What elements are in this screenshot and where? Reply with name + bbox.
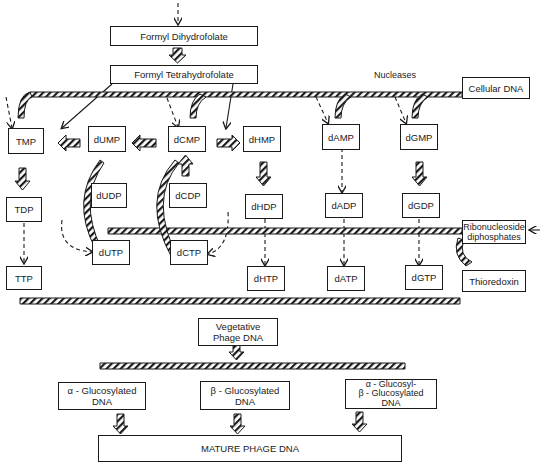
node-label: dHTP [254, 273, 278, 284]
node-label: Vegetative [216, 321, 260, 332]
dcdp-node: dCDP [169, 183, 207, 208]
node-label: MATURE PHAGE DNA [201, 443, 299, 454]
node-label: dUDP [96, 190, 121, 201]
node-label: Ribonucleoside [463, 222, 525, 232]
node-label: α - Glucosylated [68, 385, 137, 396]
dcmp-node: dCMP [168, 126, 206, 152]
dgmp-node: dGMP [400, 124, 438, 150]
node-label: dGMP [406, 132, 433, 143]
node-label: DNA [381, 399, 400, 409]
node-label: dUTP [99, 247, 123, 258]
node-label: dHDP [251, 201, 276, 212]
node-label: dCDP [175, 190, 200, 201]
dhdp-node: dHDP [245, 194, 283, 219]
node-label: dAMP [328, 132, 354, 143]
node-label: dCMP [174, 134, 200, 145]
node-label: TMP [16, 136, 36, 147]
ribonucleoside-diphosphates-node: Ribonucleosidediphosphates [462, 220, 526, 244]
node-label: dHMP [249, 134, 275, 145]
alpha-beta-glucosylated-dna-node: α - Glucosyl-β - GlucosylatedDNA [345, 379, 437, 409]
node-label: TDP [15, 204, 34, 215]
alpha-glucosylated-dna-node: α - GlucosylatedDNA [58, 382, 146, 410]
ttp-node: TTP [6, 266, 42, 290]
datp-node: dATP [327, 266, 365, 291]
dudp-node: dUDP [91, 183, 127, 208]
dump-node: dUMP [88, 126, 126, 152]
dgdp-node: dGDP [402, 193, 440, 218]
tmp-node: TMP [8, 128, 44, 154]
node-label: β - Glucosylated [211, 385, 280, 396]
formyl-tetrahydrofolate-node: Formyl Tetrahydrofolate [110, 65, 258, 84]
dadp-node: dADP [325, 193, 363, 218]
thioredoxin-node: Thioredoxin [462, 270, 526, 292]
cellular-dna-node: Cellular DNA [462, 77, 530, 99]
dhmp-node: dHMP [243, 126, 281, 152]
dgtp-node: dGTP [405, 265, 443, 290]
node-label: dUMP [94, 134, 120, 145]
formyl-dihydrofolate-node: Formyl Dihydrofolate [110, 26, 258, 46]
damp-node: dAMP [322, 124, 360, 150]
dutp-node: dUTP [92, 240, 130, 265]
dhtp-node: dHTP [247, 266, 285, 291]
node-label: DNA [235, 396, 255, 407]
node-label: Phage DNA [213, 332, 263, 343]
node-label: Formyl Tetrahydrofolate [134, 69, 234, 80]
nucleases-label: Nucleases [374, 70, 416, 80]
tdp-node: TDP [6, 197, 42, 222]
node-label: dGTP [412, 272, 437, 283]
mature-phage-dna-node: MATURE PHAGE DNA [98, 435, 402, 462]
node-label: dATP [334, 273, 357, 284]
node-label: dGDP [408, 200, 434, 211]
node-label: Thioredoxin [469, 276, 519, 287]
node-label: TTP [15, 273, 33, 284]
dctp-node: dCTP [170, 240, 208, 265]
node-label: diphosphates [467, 232, 521, 242]
vegetative-phage-dna-node: VegetativePhage DNA [198, 318, 278, 346]
node-label: DNA [92, 396, 112, 407]
node-label: Formyl Dihydrofolate [140, 31, 228, 42]
beta-glucosylated-dna-node: β - GlucosylatedDNA [200, 381, 290, 410]
node-label: Cellular DNA [469, 83, 524, 94]
node-label: dADP [332, 200, 357, 211]
node-label: dCTP [177, 247, 201, 258]
